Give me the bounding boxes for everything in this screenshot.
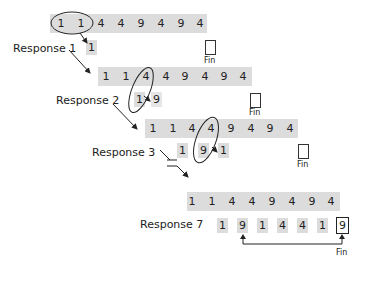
arrow-response-7-connector [243,237,342,244]
ellipse-row-2 [124,64,159,115]
ellipse-row-1 [51,12,93,34]
arrowhead-right [339,234,345,239]
arrow-response-3-part-2 [177,166,188,177]
arrow-response-3-part-1 [160,150,170,160]
arrow-row-1-output [80,33,87,43]
annotation-overlay [0,0,366,291]
arrow-response-1 [69,50,90,73]
arrowhead-left [240,234,246,239]
arrow-row-2-output [144,96,150,101]
arrow-response-2 [113,104,137,129]
ellipse-row-3 [188,114,223,166]
